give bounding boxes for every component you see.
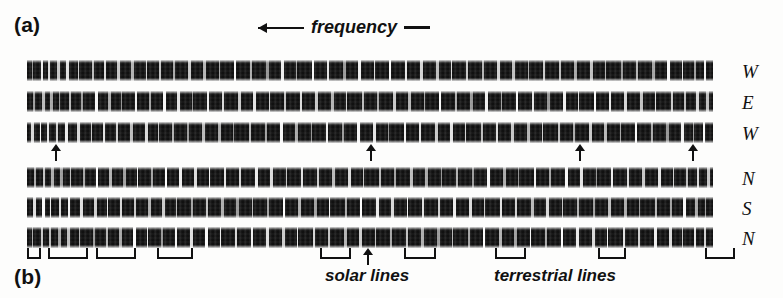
absorption-line — [175, 227, 177, 248]
absorption-line — [255, 167, 258, 188]
arrow-shaft — [579, 149, 581, 161]
row-label-w-1: W — [742, 62, 758, 81]
absorption-line — [693, 122, 694, 143]
absorption-line — [562, 197, 563, 218]
absorption-line — [497, 60, 500, 81]
absorption-line — [596, 167, 597, 188]
absorption-line — [623, 227, 625, 248]
absorption-line — [501, 91, 502, 112]
dash-rule — [404, 26, 430, 28]
absorption-line — [532, 91, 534, 112]
absorption-line — [51, 167, 54, 188]
absorption-line — [549, 167, 551, 188]
caption-solar-lines: solar lines — [325, 266, 409, 286]
absorption-line — [577, 197, 579, 218]
absorption-line — [670, 197, 672, 218]
absorption-line — [194, 167, 197, 188]
absorption-line — [187, 122, 189, 143]
absorption-line — [162, 197, 165, 218]
absorption-line — [483, 227, 485, 248]
absorption-line — [190, 227, 193, 248]
absorption-line — [671, 91, 673, 112]
absorption-line — [192, 91, 193, 112]
spectrogram-figure: (a) frequency WEWNSN (b) solar lines ter… — [0, 0, 783, 298]
absorption-line — [607, 227, 608, 248]
absorption-line — [79, 227, 80, 248]
absorption-line — [543, 60, 545, 81]
absorption-line — [469, 197, 472, 218]
line-group-bracket — [48, 248, 88, 259]
absorption-line — [408, 91, 411, 112]
absorption-line — [681, 122, 684, 143]
absorption-line — [499, 227, 502, 248]
absorption-line — [546, 197, 549, 218]
absorption-line — [313, 227, 315, 248]
absorption-line — [345, 197, 347, 218]
absorption-line — [253, 91, 256, 112]
absorption-line — [133, 227, 136, 248]
absorption-line — [593, 197, 595, 218]
absorption-line — [375, 227, 376, 248]
absorption-line — [116, 122, 118, 143]
absorption-line — [638, 227, 640, 248]
absorption-line — [530, 227, 531, 248]
absorption-line — [250, 60, 252, 81]
caption-terrestrial-lines: terrestrial lines — [494, 266, 616, 286]
absorption-line — [472, 167, 474, 188]
absorption-line — [684, 91, 686, 112]
absorption-line — [59, 197, 61, 218]
absorption-line — [651, 122, 653, 143]
absorption-line — [609, 91, 611, 112]
absorption-line — [342, 122, 344, 143]
absorption-line — [300, 91, 302, 112]
absorption-line — [682, 227, 683, 248]
absorption-line — [697, 167, 699, 188]
absorption-line — [642, 167, 645, 188]
absorption-line — [328, 227, 330, 248]
absorption-line — [407, 197, 408, 218]
absorption-line — [405, 60, 407, 81]
absorption-line — [77, 122, 80, 143]
absorption-line — [455, 91, 457, 112]
absorption-line — [438, 197, 440, 218]
absorption-line — [119, 227, 122, 248]
line-group-bracket — [27, 248, 41, 259]
absorption-line — [669, 227, 672, 248]
absorption-line — [284, 91, 286, 112]
absorption-line — [357, 122, 360, 143]
row-label-e-2: E — [742, 93, 754, 112]
absorption-line — [500, 197, 502, 218]
absorption-line — [42, 91, 45, 112]
absorption-line — [41, 60, 43, 81]
absorption-line — [134, 197, 136, 218]
absorption-line — [42, 197, 45, 218]
absorption-line — [298, 197, 301, 218]
absorption-line — [297, 227, 298, 248]
absorption-line — [301, 167, 303, 188]
absorption-line — [511, 122, 514, 143]
absorption-line — [239, 167, 241, 188]
absorption-line — [32, 60, 33, 81]
absorption-line — [437, 227, 440, 248]
absorption-line — [312, 60, 314, 81]
absorption-line — [359, 227, 362, 248]
absorption-line — [658, 167, 661, 188]
reference-line-arrow-icon — [51, 144, 62, 161]
absorption-line — [80, 197, 83, 218]
arrow-shaft — [367, 253, 369, 265]
absorption-line — [707, 167, 710, 188]
panel-label-a: (a) — [14, 13, 40, 37]
absorption-line — [137, 167, 138, 188]
absorption-line — [104, 60, 106, 81]
absorption-line — [465, 122, 466, 143]
absorption-line — [706, 91, 709, 112]
absorption-line — [694, 60, 696, 81]
absorption-line — [286, 167, 287, 188]
absorption-line — [92, 60, 94, 81]
absorption-line — [559, 60, 561, 81]
absorption-line — [487, 167, 490, 188]
absorption-line — [667, 60, 670, 81]
absorption-line — [374, 60, 375, 81]
reference-line-arrow-icon — [575, 144, 586, 161]
absorption-line — [421, 227, 424, 248]
